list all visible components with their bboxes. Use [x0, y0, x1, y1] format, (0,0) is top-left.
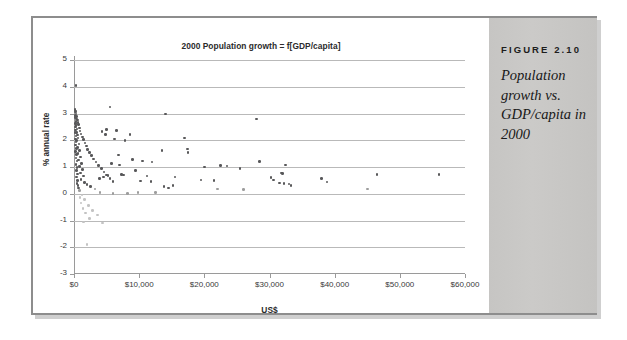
data-point	[79, 196, 82, 199]
data-point	[83, 198, 86, 201]
data-point	[219, 164, 222, 167]
data-point	[109, 106, 112, 109]
data-point	[101, 222, 104, 225]
data-point	[203, 166, 206, 169]
figure-number-label: FIGURE 2.10	[501, 44, 581, 55]
data-point	[150, 180, 153, 183]
data-point	[109, 177, 112, 180]
y-tick-label: 0	[63, 188, 67, 197]
data-point	[84, 142, 87, 145]
data-point	[75, 153, 78, 156]
y-tick-label: 1	[63, 161, 67, 170]
x-tick	[465, 274, 466, 278]
data-point	[75, 84, 78, 87]
x-tick-label: $30,000	[255, 280, 284, 289]
data-point	[124, 139, 127, 142]
data-point	[320, 177, 323, 180]
data-point	[167, 187, 170, 190]
data-point	[91, 209, 94, 212]
data-point	[88, 151, 91, 154]
plot-area: 543210-1-2-3 $0$10,000$20,000$30,000$40,…	[74, 60, 465, 274]
data-point	[77, 123, 80, 126]
gridline	[74, 194, 465, 195]
data-point	[78, 165, 81, 168]
data-point	[80, 202, 83, 205]
y-tick	[70, 194, 74, 195]
data-point	[75, 163, 78, 166]
x-tick-label: $60,000	[451, 280, 480, 289]
y-axis-label: % annual rate	[42, 113, 51, 166]
data-point	[186, 148, 189, 151]
data-point	[101, 130, 104, 133]
data-point	[78, 143, 81, 146]
gridline	[74, 60, 465, 61]
data-point	[139, 180, 142, 183]
data-point	[85, 145, 88, 148]
data-point	[174, 176, 177, 179]
data-point	[76, 160, 79, 163]
data-point	[90, 154, 93, 157]
scatter-chart: 2000 Population growth = f[GDP/capita] %…	[33, 18, 489, 313]
data-point	[216, 188, 219, 191]
data-point	[172, 184, 175, 187]
y-tick	[70, 221, 74, 222]
x-tick	[400, 274, 401, 278]
data-point	[84, 212, 87, 215]
x-tick-label: $40,000	[320, 280, 349, 289]
data-point	[183, 137, 186, 140]
data-point	[154, 191, 157, 194]
data-point	[107, 174, 110, 177]
data-point	[82, 207, 85, 210]
data-point	[117, 154, 120, 157]
y-tick-label: 4	[63, 81, 67, 90]
x-tick	[270, 274, 271, 278]
data-point	[122, 174, 125, 177]
data-point	[272, 179, 275, 182]
data-point	[81, 168, 84, 171]
x-tick-label: $0	[70, 280, 79, 289]
data-point	[86, 183, 89, 186]
y-tick-label: 2	[63, 134, 67, 143]
data-point	[96, 214, 99, 217]
data-point	[258, 160, 261, 163]
x-axis-label: US$	[74, 305, 465, 315]
gridline	[74, 140, 465, 141]
y-tick	[70, 247, 74, 248]
data-point	[255, 118, 258, 121]
data-point	[242, 188, 245, 191]
y-tick	[70, 167, 74, 168]
data-point	[141, 160, 144, 163]
data-point	[94, 188, 97, 191]
y-tick	[70, 140, 74, 141]
x-tick	[139, 274, 140, 278]
chart-title: 2000 Population growth = f[GDP/capita]	[33, 41, 489, 51]
data-point	[326, 181, 329, 184]
data-point	[102, 176, 105, 179]
data-point	[134, 169, 137, 172]
data-point	[95, 161, 98, 164]
data-point	[79, 156, 82, 159]
y-tick	[70, 60, 74, 61]
data-point	[75, 169, 78, 172]
data-point	[75, 147, 78, 150]
data-point	[80, 178, 83, 181]
data-point	[126, 192, 129, 195]
data-point	[284, 164, 287, 167]
y-tick-label: -1	[60, 215, 67, 224]
data-point	[213, 179, 216, 182]
y-tick-label: 3	[63, 108, 67, 117]
x-tick	[204, 274, 205, 278]
data-point	[113, 138, 116, 141]
data-point	[161, 149, 164, 152]
data-point	[88, 217, 91, 220]
gridline	[74, 87, 465, 88]
data-point	[110, 162, 113, 165]
data-point	[86, 148, 89, 151]
data-point	[82, 175, 85, 178]
data-point	[79, 172, 82, 175]
data-point	[366, 188, 369, 191]
data-point	[112, 180, 115, 183]
figure-caption-text: Population growth vs. GDP/capita in 2000	[501, 66, 593, 144]
x-tick	[335, 274, 336, 278]
data-point	[82, 221, 85, 224]
